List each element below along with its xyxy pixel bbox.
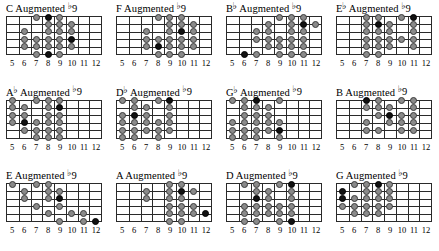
string-line [7, 221, 101, 222]
scale-tone-dot [265, 119, 272, 126]
scale-tone-dot [410, 36, 417, 43]
scale-tone-dot [375, 127, 382, 134]
fret-line [349, 17, 350, 54]
scale-tone-dot [56, 119, 63, 126]
root-note-dot [339, 188, 346, 195]
fret-number: 8 [42, 141, 54, 153]
scale-tone-dot [410, 21, 417, 28]
root-note-dot [276, 127, 283, 134]
fretboard [226, 183, 322, 222]
fretboard [116, 183, 212, 222]
fret-number: 10 [176, 57, 188, 69]
fret-line [31, 101, 32, 138]
fret-number: 10 [286, 224, 298, 236]
chord-extension: ♭9 [292, 3, 302, 14]
fret-line [188, 17, 189, 54]
scale-tone-dot [288, 203, 295, 210]
fret-number: 12 [310, 224, 322, 236]
scale-tone-dot [9, 97, 16, 104]
root-note-dot [288, 181, 295, 188]
chord-quality: Augmented [125, 170, 175, 181]
chord-quality: Augmented [346, 170, 396, 181]
fret-line [309, 17, 310, 54]
scale-tone-dot [143, 112, 150, 119]
scale-tone-dot [375, 36, 382, 43]
scale-tone-dot [375, 210, 382, 217]
scale-tone-dot [45, 112, 52, 119]
fret-number: 8 [262, 224, 274, 236]
chord-extension-number: 9 [406, 3, 411, 14]
scale-tone-dot [178, 21, 185, 28]
flat-accidental-icon: ♭ [123, 85, 128, 95]
fretboard [226, 16, 322, 55]
fret-line [42, 184, 43, 221]
fret-number: 6 [348, 57, 360, 69]
scale-tone-dot [143, 36, 150, 43]
fret-line [176, 101, 177, 138]
fret-number: 5 [336, 224, 348, 236]
string-line [7, 138, 101, 139]
chord-diagram: C Augmented♭956789101112 [0, 0, 110, 84]
fret-line [286, 101, 287, 138]
fret-number: 12 [200, 141, 212, 153]
fret-number: 7 [360, 224, 372, 236]
fret-line [419, 101, 420, 138]
fret-line [274, 101, 275, 138]
scale-tone-dot [410, 43, 417, 50]
root-note-dot [375, 21, 382, 28]
chord-title: D♭ Augmented♭9 [116, 84, 192, 99]
scale-tone-dot [363, 127, 370, 134]
scale-tone-dot [166, 14, 173, 21]
chord-quality: Augmented [345, 86, 395, 97]
fret-number: 5 [226, 57, 238, 69]
scale-tone-dot [56, 21, 63, 28]
scale-tone-dot [155, 14, 162, 21]
fretboard [6, 16, 102, 55]
fret-number-row: 56789101112 [336, 141, 432, 153]
scale-tone-dot [56, 203, 63, 210]
fret-line [361, 101, 362, 138]
fret-line [199, 17, 200, 54]
scale-tone-dot [21, 127, 28, 134]
fret-number: 10 [286, 57, 298, 69]
scale-tone-dot [21, 43, 28, 50]
fretboard [116, 100, 212, 139]
fret-line [89, 184, 90, 221]
fret-number: 5 [336, 57, 348, 69]
fret-line [372, 184, 373, 221]
scale-tone-dot [166, 188, 173, 195]
scale-tone-dot [253, 127, 260, 134]
fret-line [176, 17, 177, 54]
scale-tone-dot [288, 28, 295, 35]
fret-number: 10 [396, 141, 408, 153]
fret-line [42, 101, 43, 138]
chord-root: E [6, 170, 13, 181]
scale-tone-dot [21, 188, 28, 195]
scale-tone-dot [190, 188, 197, 195]
scale-tone-dot [33, 181, 40, 188]
root-note-dot [410, 14, 417, 21]
fret-number: 8 [372, 224, 384, 236]
scale-tone-dot [386, 181, 393, 188]
fret-line [129, 17, 130, 54]
scale-tone-dot [155, 36, 162, 43]
fret-line [188, 184, 189, 221]
fret-number: 9 [274, 141, 286, 153]
chord-extension-number: 9 [182, 170, 187, 181]
fret-line [274, 17, 275, 54]
fret-line [239, 17, 240, 54]
fret-line [349, 184, 350, 221]
scale-tone-dot [178, 195, 185, 202]
flat-accidental-icon: ♭ [233, 1, 238, 11]
scale-tone-dot [80, 210, 87, 217]
root-note-dot [253, 195, 260, 202]
fret-number: 9 [164, 224, 176, 236]
scale-tone-dot [155, 127, 162, 134]
scale-tone-dot [363, 28, 370, 35]
scale-tone-dot [9, 181, 16, 188]
fret-number: 12 [310, 141, 322, 153]
chord-title: F Augmented♭9 [116, 0, 186, 15]
fret-number: 11 [408, 224, 420, 236]
scale-tone-dot [33, 97, 40, 104]
fret-number: 6 [128, 224, 140, 236]
